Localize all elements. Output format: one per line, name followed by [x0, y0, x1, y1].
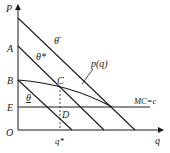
- point-a-label: A: [6, 43, 14, 54]
- y-axis-label: P: [5, 3, 12, 14]
- point-c-label: C: [57, 75, 64, 86]
- q-star-label: q*: [55, 136, 65, 146]
- x-axis-label: q: [155, 135, 160, 146]
- origin-label: O: [6, 127, 13, 138]
- theta-bar-demand-line: [18, 18, 135, 130]
- theta-star-label: θ*: [36, 51, 46, 62]
- marginal-cost-label: MC=c: [133, 96, 156, 106]
- point-e-label: E: [6, 102, 13, 113]
- point-b-label: B: [7, 75, 13, 86]
- price-curve-pointer: [82, 69, 93, 84]
- demand-cost-diagram: P q O A B E C D q* θ̄ θ* θ p(q) MC=c: [0, 0, 170, 153]
- price-curve-label: p(q): [90, 58, 108, 70]
- theta-label: θ: [26, 92, 31, 103]
- point-d-label: D: [61, 109, 70, 120]
- theta-bar-label: θ̄: [54, 35, 62, 46]
